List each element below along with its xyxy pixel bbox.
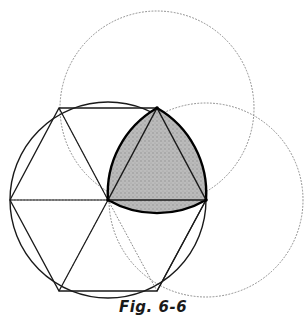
geometry-canvas	[0, 0, 306, 327]
vertex-marker-apex	[155, 106, 159, 110]
chord-top-left	[59, 108, 108, 200]
figure-root: Fig. 6-6	[0, 0, 306, 327]
vertex-marker-right	[204, 198, 208, 202]
chord-bottom-left	[59, 200, 108, 291]
figure-caption: Fig. 6-6	[0, 298, 306, 316]
shaded-reuleaux-triangle	[108, 108, 206, 213]
vertex-marker-center	[106, 198, 110, 202]
